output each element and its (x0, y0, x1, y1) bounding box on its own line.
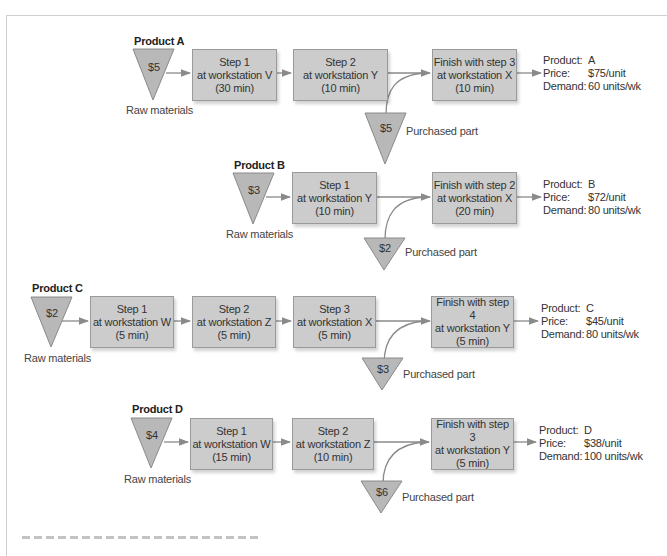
purchased-part-triangle-a (365, 113, 406, 164)
step-line: (20 min) (455, 205, 494, 218)
purchased-part-cost-b: $2 (365, 242, 405, 254)
info-key: Product: (543, 178, 588, 191)
arrow-a-part-to-finish (386, 73, 425, 115)
raw-material-triangle-b (233, 173, 274, 224)
info-key: Product: (539, 424, 584, 437)
step-line: at workstation V (197, 69, 272, 82)
product-a-info: Product:A Price:$75/unit Demand:60 units… (543, 54, 641, 93)
info-price: $75/unit (588, 67, 626, 80)
step-line: Finish with step 4 (432, 296, 513, 322)
step-line: at workstation W (93, 316, 171, 329)
info-key: Price: (541, 315, 586, 328)
figure-caption-cutoff (22, 534, 262, 539)
info-key: Price: (539, 437, 584, 450)
step-line: (10 min) (321, 82, 360, 95)
info-key: Demand: (539, 450, 584, 463)
process-step-a-1: Step 1 at workstation V (30 min) (192, 49, 277, 101)
step-line: Finish with step 3 (434, 56, 515, 69)
process-step-d-finish: Finish with step 3 at workstation Y (5 m… (431, 418, 514, 470)
step-line: at workstation W (192, 438, 270, 451)
product-d-info: Product:D Price:$38/unit Demand:100 unit… (539, 424, 643, 463)
arrow-b-part-to-finish (385, 197, 425, 240)
info-demand: 80 units/wk (588, 204, 641, 217)
step-line: at workstation Z (197, 316, 271, 329)
info-key: Demand: (543, 204, 588, 217)
info-price: $45/unit (586, 315, 624, 328)
step-line: Step 1 (219, 56, 250, 69)
arrow-d-part-to-finish (383, 442, 425, 484)
info-product: C (586, 302, 594, 315)
step-line: (10 min) (315, 205, 354, 218)
purchased-part-cost-d: $6 (362, 486, 402, 498)
process-step-c-1: Step 1 at workstation W (5 min) (90, 296, 174, 348)
step-line: at workstation Z (296, 438, 370, 451)
raw-material-triangle-d (131, 418, 172, 468)
step-line: (5 min) (456, 457, 489, 470)
purchased-part-cost-c: $3 (363, 363, 403, 375)
step-line: (10 min) (314, 451, 353, 464)
step-line: at workstation Y (435, 444, 510, 457)
process-step-c-3: Step 3 at workstation X (5 min) (293, 296, 376, 348)
product-b-info: Product:B Price:$72/unit Demand:80 units… (543, 178, 641, 217)
purchased-part-label-b: Purchased part (405, 246, 477, 258)
process-step-b-finish: Finish with step 2 at workstation X (20 … (432, 172, 517, 224)
step-line: at workstation X (437, 69, 512, 82)
process-step-c-2: Step 2 at workstation Z (5 min) (192, 296, 276, 348)
info-price: $72/unit (588, 191, 626, 204)
purchased-part-label-a: Purchased part (406, 125, 478, 137)
info-price: $38/unit (584, 437, 622, 450)
purchased-part-label-c: Purchased part (403, 368, 475, 380)
step-line: Step 1 (216, 425, 247, 438)
info-product: B (588, 178, 595, 191)
raw-material-label-a: Raw materials (126, 104, 193, 116)
step-line: Finish with step 3 (432, 418, 513, 444)
info-demand: 100 units/wk (584, 450, 643, 463)
raw-material-cost-b: $3 (234, 184, 274, 196)
raw-material-cost-d: $4 (132, 429, 172, 441)
info-product: A (588, 54, 595, 67)
step-line: at workstation Y (303, 69, 378, 82)
purchased-part-label-d: Purchased part (402, 491, 474, 503)
info-demand: 60 units/wk (588, 80, 641, 93)
step-line: at workstation Y (297, 192, 372, 205)
process-step-a-finish: Finish with step 3 at workstation X (10 … (432, 49, 517, 101)
step-line: Step 2 (219, 303, 250, 316)
product-a-title: Product A (134, 35, 184, 47)
process-step-d-1: Step 1 at workstation W (15 min) (190, 418, 273, 470)
step-line: Step 1 (117, 303, 148, 316)
process-step-a-2: Step 2 at workstation Y (10 min) (293, 49, 388, 101)
step-line: Step 2 (318, 425, 349, 438)
step-line: Step 3 (319, 303, 350, 316)
step-line: Finish with step 2 (434, 179, 515, 192)
step-line: at workstation X (437, 192, 512, 205)
step-line: (5 min) (116, 329, 149, 342)
raw-material-cost-c: $2 (32, 307, 72, 319)
product-d-title: Product D (132, 403, 183, 415)
raw-material-triangle-a (133, 49, 174, 100)
info-key: Demand: (543, 80, 588, 93)
step-line: (5 min) (456, 335, 489, 348)
info-key: Price: (543, 191, 588, 204)
info-demand: 80 units/wk (586, 328, 639, 341)
process-step-b-1: Step 1 at workstation Y (10 min) (292, 172, 377, 224)
product-c-title: Product C (32, 282, 83, 294)
raw-material-cost-a: $5 (134, 61, 174, 73)
step-line: (5 min) (218, 329, 251, 342)
info-key: Demand: (541, 328, 586, 341)
purchased-part-cost-a: $5 (366, 122, 406, 134)
step-line: (30 min) (215, 82, 254, 95)
product-b-title: Product B (234, 159, 285, 171)
raw-material-label-b: Raw materials (226, 228, 293, 240)
raw-material-label-d: Raw materials (124, 473, 191, 485)
step-line: Step 2 (325, 56, 356, 69)
step-line: Step 1 (319, 179, 350, 192)
step-line: at workstation Y (435, 322, 510, 335)
raw-material-label-c: Raw materials (24, 352, 91, 364)
info-key: Product: (541, 302, 586, 315)
step-line: (10 min) (455, 82, 494, 95)
process-step-d-2: Step 2 at workstation Z (10 min) (292, 418, 374, 470)
info-product: D (584, 424, 592, 437)
raw-material-triangle-c (31, 297, 72, 347)
process-step-c-finish: Finish with step 4 at workstation Y (5 m… (431, 296, 514, 348)
step-line: (5 min) (318, 329, 351, 342)
